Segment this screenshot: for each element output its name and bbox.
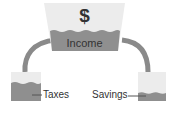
- taxes-label: Taxes: [43, 90, 69, 100]
- savings-label: Savings: [92, 90, 128, 100]
- income-label: Income: [0, 38, 169, 49]
- dollar-symbol: $: [0, 6, 169, 25]
- taxes-water: [11, 82, 41, 101]
